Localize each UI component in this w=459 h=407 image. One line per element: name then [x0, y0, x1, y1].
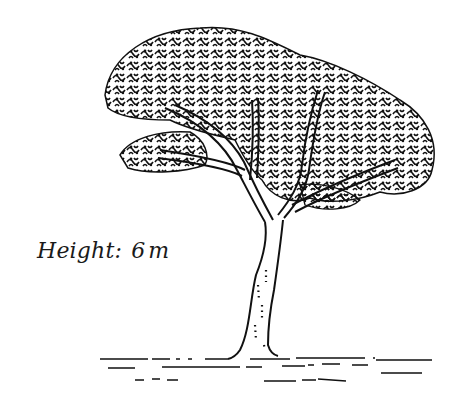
height-caption: Height:6m [37, 238, 169, 263]
ground-lines [100, 358, 432, 381]
height-unit: m [148, 238, 169, 263]
canopy [105, 27, 434, 209]
trunk [228, 220, 283, 359]
tree-illustration [0, 0, 459, 407]
height-label: Height: [37, 238, 122, 263]
height-value: 6 [131, 238, 145, 263]
